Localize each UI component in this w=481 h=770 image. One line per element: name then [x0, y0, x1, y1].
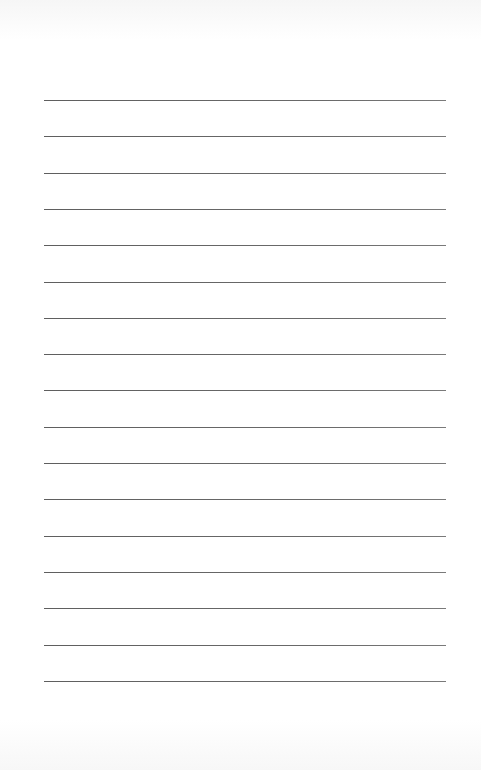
ruled-line	[44, 681, 446, 682]
ruled-line	[44, 608, 446, 609]
ruled-line	[44, 427, 446, 428]
ruled-line	[44, 245, 446, 246]
ruled-line	[44, 136, 446, 137]
ruled-line	[44, 390, 446, 391]
ruled-line	[44, 100, 446, 101]
ruled-lines	[44, 0, 446, 770]
ruled-line	[44, 463, 446, 464]
ruled-line	[44, 572, 446, 573]
ruled-line	[44, 209, 446, 210]
ruled-line	[44, 318, 446, 319]
lined-paper-page	[0, 0, 481, 770]
ruled-line	[44, 499, 446, 500]
ruled-line	[44, 173, 446, 174]
ruled-line	[44, 536, 446, 537]
ruled-line	[44, 645, 446, 646]
ruled-line	[44, 282, 446, 283]
ruled-line	[44, 354, 446, 355]
